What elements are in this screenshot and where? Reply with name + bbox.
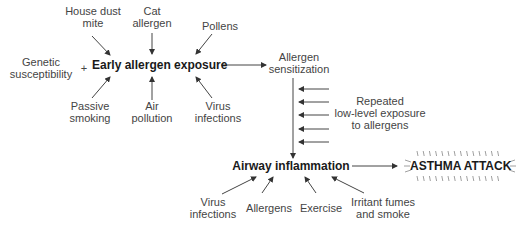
node-allergens: Allergens	[244, 202, 294, 214]
arrow-virus-infections-top	[196, 77, 212, 98]
node-cat-allergen: Cat allergen	[124, 5, 180, 29]
starburst-tick	[460, 151, 461, 156]
node-virus-infections-bottom: Virus infections	[188, 196, 238, 220]
starburst-tick	[436, 151, 437, 156]
arrow-irritant-fumes	[332, 177, 364, 193]
node-pollens: Pollens	[195, 20, 245, 32]
node-exercise: Exercise	[298, 202, 344, 214]
node-allergen-sensitization: Allergen sensitization	[267, 51, 331, 75]
starburst-tick	[491, 151, 492, 156]
starburst-tick	[473, 176, 474, 181]
node-early-allergen-exposure: Early allergen exposure	[92, 59, 222, 71]
arrow-house-dust-mite	[92, 36, 110, 55]
starburst-tick	[479, 151, 480, 156]
starburst-tick	[423, 151, 424, 156]
node-repeated-exposure: Repeated low-level exposure to allergens	[330, 95, 430, 131]
arrow-passive-smoking	[92, 77, 110, 98]
starburst-tick	[423, 176, 424, 181]
starburst-tick	[454, 176, 455, 181]
starburst-tick	[417, 151, 418, 156]
starburst-tick	[467, 176, 468, 181]
starburst-tick	[473, 151, 474, 156]
plus-sign: +	[79, 62, 89, 74]
starburst-tick	[417, 176, 418, 181]
starburst-tick	[448, 176, 449, 181]
starburst-tick	[429, 176, 430, 181]
node-passive-smoking: Passive smoking	[62, 100, 118, 124]
starburst-tick	[485, 176, 486, 181]
starburst-tick	[460, 176, 461, 181]
starburst-tick	[467, 151, 468, 156]
starburst-tick	[429, 151, 430, 156]
node-airway-inflammation: Airway inflammation	[232, 160, 350, 172]
node-house-dust-mite: House dust mite	[62, 5, 124, 29]
arrow-pollens	[196, 34, 212, 54]
node-air-pollution: Air pollution	[126, 100, 178, 124]
arrow-virus-infections-bottom	[222, 177, 256, 194]
starburst-tick	[436, 176, 437, 181]
starburst-tick	[448, 151, 449, 156]
starburst-tick	[454, 151, 455, 156]
starburst-tick	[485, 151, 486, 156]
starburst-tick	[498, 176, 499, 181]
node-virus-infections-top: Virus infections	[190, 100, 246, 124]
starburst-tick	[479, 176, 480, 181]
node-genetic-susceptibility: Genetic susceptibility	[4, 56, 78, 80]
starburst-tick	[491, 176, 492, 181]
starburst-tick	[442, 151, 443, 156]
starburst-tick	[498, 151, 499, 156]
node-irritant-fumes: Irritant fumes and smoke	[346, 196, 420, 220]
starburst-tick	[442, 176, 443, 181]
arrow-allergens	[262, 177, 273, 193]
node-asthma-attack: ASTHMA ATTACK	[410, 160, 510, 172]
arrow-exercise	[305, 177, 316, 193]
